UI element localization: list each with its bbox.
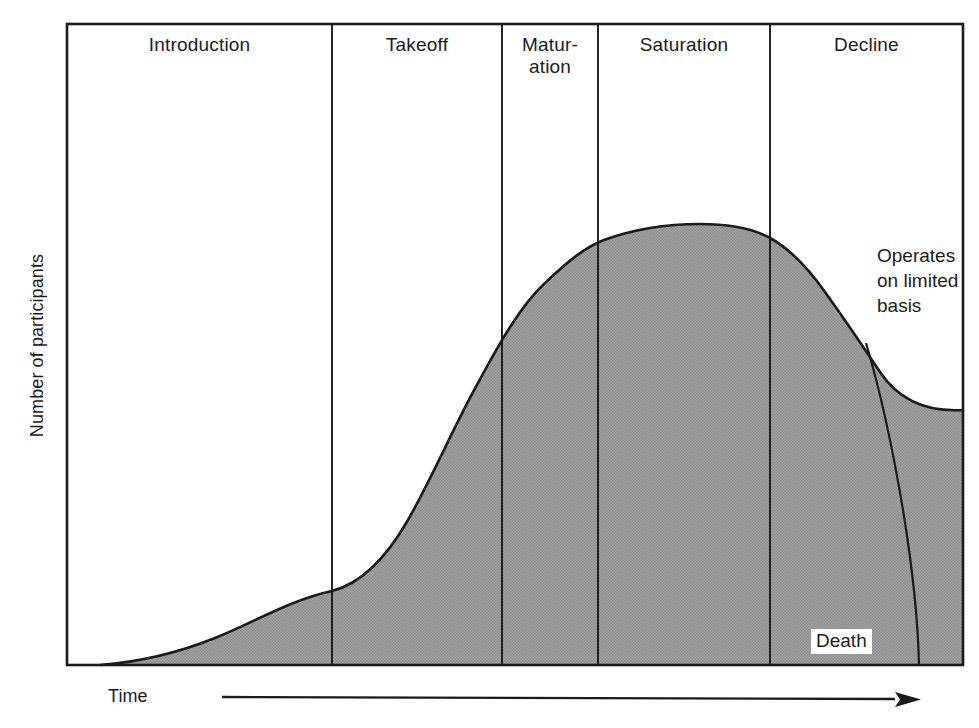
area-fill (100, 224, 963, 665)
y-axis-label: Number of participants (27, 206, 48, 486)
stage-label-takeoff: Takeoff (334, 34, 500, 56)
stage-label-saturation: Saturation (600, 34, 768, 56)
time-arrow-icon (222, 692, 921, 707)
annotation-death: Death (811, 629, 872, 654)
annotation-operates-on-limited-basis: Operates on limited basis (877, 243, 979, 318)
product-life-cycle-chart (0, 0, 979, 728)
chart-figure: Introduction Takeoff Matur- ation Satura… (0, 0, 979, 728)
stage-label-maturation: Matur- ation (504, 34, 596, 78)
x-axis-label: Time (108, 686, 148, 707)
stage-label-introduction: Introduction (69, 34, 330, 56)
stage-label-decline: Decline (772, 34, 961, 56)
